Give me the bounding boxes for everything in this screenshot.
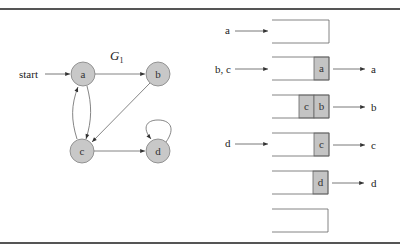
queue-box (272, 209, 328, 232)
edge-c-a (73, 87, 78, 139)
queue-box (272, 20, 329, 43)
node-a: a (71, 62, 95, 86)
queue-step-4: d c c (225, 133, 376, 156)
queue-states: a b, c a a c b b d c (215, 20, 377, 232)
dequeue-label: d (371, 177, 377, 189)
svg-text:c: c (319, 138, 324, 150)
svg-text:d: d (318, 176, 324, 188)
node-b: b (146, 62, 170, 86)
node-c: c (70, 139, 94, 163)
queue-step-5: d d (272, 171, 377, 194)
svg-text:a: a (81, 68, 86, 80)
bfs-diagram: G1 start a b c d a (0, 0, 400, 251)
edge-a-c (86, 86, 91, 139)
queue-step-2: b, c a a (215, 57, 376, 80)
svg-text:a: a (319, 62, 324, 74)
node-d: d (146, 139, 170, 163)
enqueue-label: d (225, 137, 231, 149)
svg-text:b: b (319, 100, 325, 112)
dequeue-label: c (371, 139, 376, 151)
svg-text:b: b (155, 68, 161, 80)
start-label: start (19, 68, 38, 80)
edge-b-c (92, 83, 150, 142)
svg-text:c: c (80, 145, 85, 157)
svg-text:d: d (155, 145, 161, 157)
dequeue-label: a (371, 63, 376, 75)
queue-step-3: c b b (272, 95, 377, 118)
graph-title: G1 (110, 48, 123, 65)
enqueue-label: a (225, 24, 230, 36)
svg-text:c: c (304, 100, 309, 112)
queue-step-1: a (225, 20, 329, 43)
queue-step-6 (272, 209, 328, 232)
dequeue-label: b (371, 101, 377, 113)
graph-g1: G1 start a b c d (19, 48, 171, 163)
enqueue-label: b, c (215, 63, 231, 75)
